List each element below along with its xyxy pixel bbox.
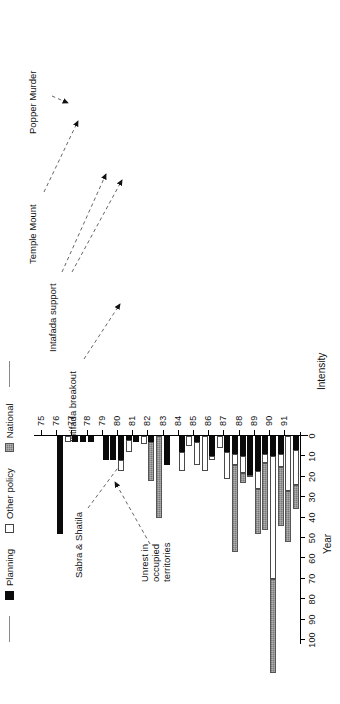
value-tick: [300, 455, 305, 456]
bar-75H2: [50, 0, 56, 704]
category-axis-title: Year: [322, 534, 333, 554]
bar-79H2: [110, 0, 116, 704]
bar-segment-planning: [110, 436, 116, 460]
bar-91H2: [293, 0, 299, 704]
value-tick-label: 100: [307, 631, 317, 649]
bar-segment-other: [285, 436, 291, 491]
bar-segment-planning: [209, 436, 215, 456]
bar-segment-planning: [118, 436, 124, 460]
bar-segment-national: [270, 579, 276, 673]
bar-82H2: [156, 0, 162, 704]
bar-80H1: [118, 0, 124, 704]
bar-77H1: [72, 0, 78, 704]
value-tick-label: 90: [307, 611, 317, 629]
annotation-temple-mount: Temple Mount: [28, 204, 39, 264]
bar-87H1: [224, 0, 230, 704]
legend-swatch-other-policy: [5, 524, 14, 533]
bar-88H2: [247, 0, 253, 704]
bar-segment-national: [232, 465, 238, 553]
category-axis-line: [300, 432, 301, 644]
bar-90H1: [270, 0, 276, 704]
bar-segment-other: [118, 461, 124, 471]
legend-swatch-national: [5, 443, 14, 452]
value-tick-label: 30: [307, 488, 317, 506]
bar-segment-planning: [57, 436, 63, 534]
bar-segment-planning: [232, 436, 238, 454]
value-tick: [300, 598, 305, 599]
bar-segment-other: [141, 436, 147, 444]
bar-83H1: [164, 0, 170, 704]
bar-76H2: [65, 0, 71, 704]
bar-89H1: [255, 0, 261, 704]
bar-91H1: [285, 0, 291, 704]
value-tick: [300, 578, 305, 579]
bar-84H2: [186, 0, 192, 704]
bar-segment-other: [224, 452, 230, 479]
bar-segment-other: [247, 475, 253, 477]
value-tick-label: 40: [307, 509, 317, 527]
bar-77H2: [80, 0, 86, 704]
bar-segment-national: [148, 442, 154, 481]
value-tick: [300, 517, 305, 518]
bar-segment-planning: [255, 436, 261, 471]
bar-segment-planning: [270, 436, 276, 456]
bar-segment-other: [194, 442, 200, 464]
bar-81H1: [133, 0, 139, 704]
bar-segment-planning: [278, 436, 284, 454]
bar-segment-planning: [293, 436, 299, 450]
figure: Planning Other policy National 010203040…: [0, 0, 340, 704]
legend-label-national: National: [4, 403, 15, 438]
bar-segment-planning: [80, 436, 86, 442]
bar-segment-other: [270, 456, 276, 578]
bar-segment-other: [262, 454, 268, 462]
bar-segment-national: [240, 473, 246, 483]
value-tick-label: 80: [307, 590, 317, 608]
annotation-popper-murder: Popper Murder: [28, 71, 39, 134]
bar-segment-planning: [224, 436, 230, 452]
chart-canvas: Planning Other policy National 010203040…: [0, 0, 340, 704]
bar-segment-other: [65, 436, 71, 442]
value-tick: [300, 639, 305, 640]
value-tick-label: 50: [307, 529, 317, 547]
bar-segment-planning: [103, 436, 109, 460]
legend-label-planning: Planning: [4, 549, 15, 586]
value-tick: [300, 476, 305, 477]
legend-item-planning: Planning: [4, 549, 15, 600]
bar-81H2: [141, 0, 147, 704]
bar-90H2: [278, 0, 284, 704]
bar-78H2: [95, 0, 101, 704]
bar-segment-other: [278, 454, 284, 466]
bar-segment-planning: [247, 436, 253, 475]
bar-segment-national: [255, 489, 261, 534]
legend-item-other-policy: Other policy: [4, 468, 15, 533]
bar-segment-planning: [262, 436, 268, 454]
bar-segment-planning: [179, 436, 185, 452]
legend-rule: [9, 616, 10, 642]
legend-item-national: National: [4, 403, 15, 452]
bar-79H1: [103, 0, 109, 704]
bar-segment-other: [186, 436, 192, 446]
value-tick-label: 20: [307, 468, 317, 486]
bar-86H1: [209, 0, 215, 704]
bar-segment-other: [293, 450, 299, 485]
bar-segment-planning: [240, 436, 246, 456]
bar-segment-national: [285, 491, 291, 542]
bar-82H1: [148, 0, 154, 704]
bar-86H2: [217, 0, 223, 704]
chart-legend: Planning Other policy National: [4, 361, 15, 642]
bar-78H1: [88, 0, 94, 704]
bar-89H2: [262, 0, 268, 704]
value-tick: [300, 496, 305, 497]
bar-87H2: [232, 0, 238, 704]
bar-segment-national: [278, 467, 284, 526]
bar-segment-planning: [88, 436, 94, 442]
bar-segment-national: [293, 485, 299, 509]
value-tick: [300, 435, 305, 436]
value-tick: [300, 619, 305, 620]
bar-segment-other: [126, 440, 132, 452]
bar-segment-planning: [133, 436, 139, 442]
bar-75H1: [42, 0, 48, 704]
bar-segment-other: [232, 454, 238, 464]
legend-rule-end: [9, 361, 10, 387]
bar-76H1: [57, 0, 63, 704]
